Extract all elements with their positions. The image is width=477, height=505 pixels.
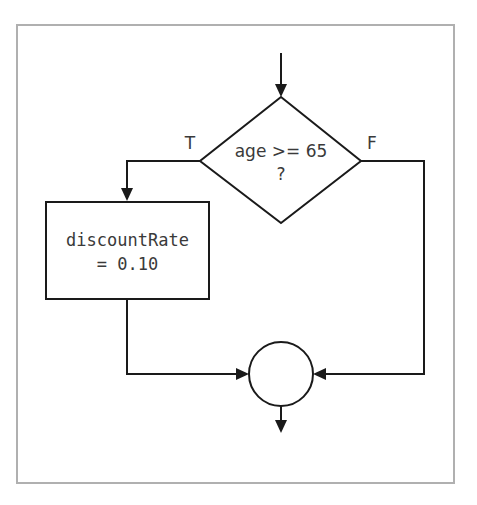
decision-diamond: age >= 65 ? (200, 97, 361, 223)
false-branch-arrow (313, 161, 424, 380)
false-branch-label: F (367, 133, 377, 153)
true-branch-label: T (184, 133, 196, 153)
process-box: discountRate = 0.10 (46, 202, 209, 299)
flowchart-canvas: age >= 65 ? T F discountRate = 0.10 (0, 0, 477, 505)
merge-connector-circle (249, 342, 313, 406)
true-branch-arrow (121, 161, 200, 201)
exit-arrow (275, 406, 287, 433)
decision-condition-text: age >= 65 (235, 141, 328, 161)
process-assignment-text: = 0.10 (97, 254, 158, 274)
process-variable-text: discountRate (66, 230, 189, 250)
merge-left-arrow (127, 299, 249, 380)
decision-question-mark: ? (276, 164, 285, 184)
entry-arrow (275, 53, 287, 97)
